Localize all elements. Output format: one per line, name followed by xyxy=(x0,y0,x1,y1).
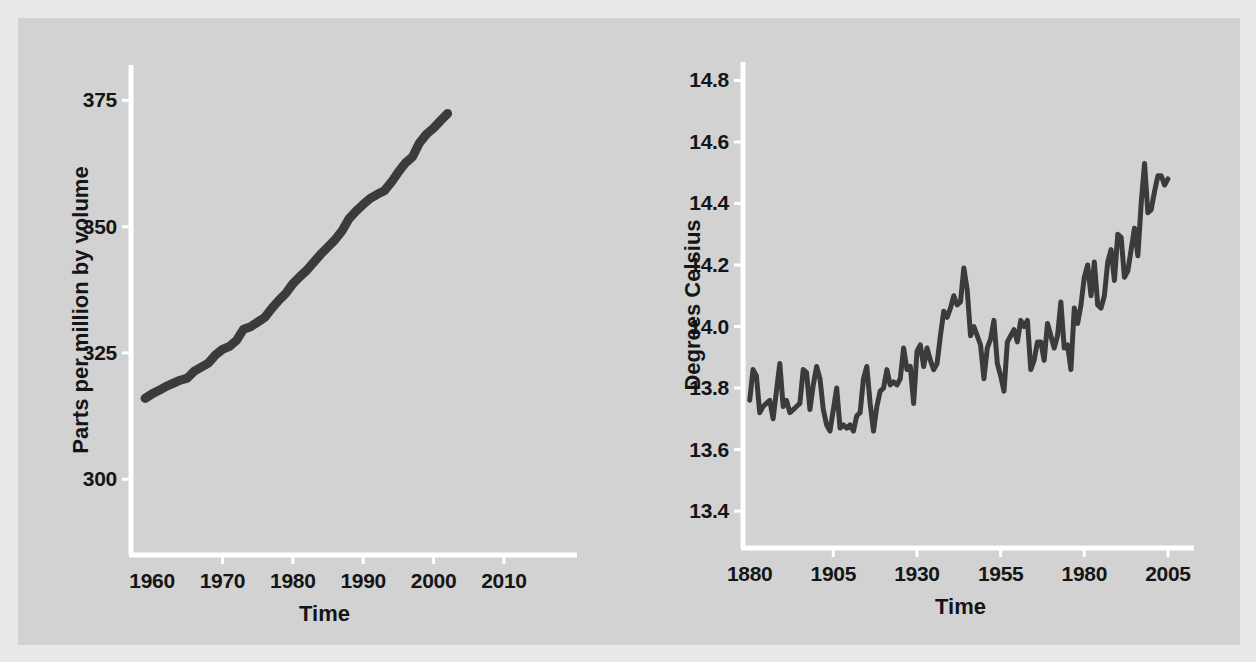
temperature-y-tick-label: 13.4 xyxy=(689,499,729,523)
co2-x-tick-label: 2010 xyxy=(481,569,527,593)
co2-axes xyxy=(122,65,577,564)
co2-y-axis-title: Parts per million by volume xyxy=(68,166,94,453)
co2-y-tick-label: 375 xyxy=(83,88,117,112)
figure-panel: 300325350375 196019701980199020002010 Pa… xyxy=(18,18,1240,645)
temperature-chart: 13.413.613.814.014.214.414.614.8 1880190… xyxy=(638,18,1240,645)
temperature-axes xyxy=(734,62,1194,557)
figure-root: 300325350375 196019701980199020002010 Pa… xyxy=(0,0,1256,662)
co2-x-tick-label: 1980 xyxy=(270,569,316,593)
co2-data-line xyxy=(145,113,448,398)
temperature-y-tick-label: 14.8 xyxy=(689,68,729,92)
temperature-x-tick-label: 1955 xyxy=(978,562,1024,586)
co2-x-tick-label: 2000 xyxy=(411,569,457,593)
temperature-y-tick-label: 13.6 xyxy=(689,438,729,462)
co2-y-tick-label: 300 xyxy=(83,467,117,491)
co2-x-tick-label: 1970 xyxy=(200,569,246,593)
temperature-x-tick-label: 1930 xyxy=(894,562,940,586)
temperature-x-tick-label: 1880 xyxy=(727,562,773,586)
co2-x-axis-title: Time xyxy=(299,601,350,627)
temperature-x-axis-title: Time xyxy=(935,594,986,620)
temperature-x-tick-label: 1980 xyxy=(1062,562,1108,586)
temperature-y-tick-label: 14.4 xyxy=(689,191,729,215)
temperature-y-axis-title: Degrees Celsius xyxy=(680,219,706,390)
temperature-x-tick-label: 1905 xyxy=(811,562,857,586)
co2-chart: 300325350375 196019701980199020002010 Pa… xyxy=(18,18,638,645)
co2-x-tick-label: 1990 xyxy=(340,569,386,593)
temperature-data-line xyxy=(750,164,1168,432)
temperature-x-tick-label: 2005 xyxy=(1145,562,1191,586)
co2-x-tick-label: 1960 xyxy=(129,569,175,593)
temperature-y-tick-label: 14.6 xyxy=(689,130,729,154)
